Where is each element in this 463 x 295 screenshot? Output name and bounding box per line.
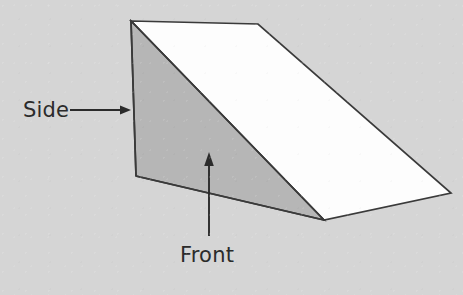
diagram-canvas: Triangular wedge solid with labelled fac…: [0, 0, 463, 295]
side-arrow-head: [120, 106, 131, 115]
front-label: Front: [180, 243, 234, 267]
side-label: Side: [23, 98, 69, 122]
side-leader: [70, 106, 131, 115]
wedge-figure: Triangular wedge solid with labelled fac…: [0, 0, 463, 295]
